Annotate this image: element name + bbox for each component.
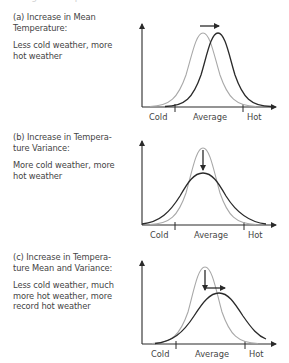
panel-b-chart: Cold Average Hot bbox=[142, 141, 276, 240]
average-label: Average bbox=[193, 112, 227, 122]
panel-a-chart: Cold Average Hot bbox=[142, 24, 276, 122]
cold-label: Cold bbox=[151, 349, 169, 359]
distribution-diagrams: Cold Average Hot Cold Average Hot Cold A… bbox=[0, 0, 289, 363]
average-label: Average bbox=[194, 230, 228, 240]
cold-label: Cold bbox=[149, 112, 167, 122]
hot-label: Hot bbox=[248, 230, 263, 240]
panel-c-chart: Cold Average Hot bbox=[142, 261, 276, 359]
hot-label: Hot bbox=[249, 349, 264, 359]
average-label: Average bbox=[195, 349, 229, 359]
cold-label: Cold bbox=[150, 230, 168, 240]
shifted-widened-distribution-curve bbox=[155, 293, 266, 344]
widened-distribution-curve bbox=[142, 173, 266, 224]
hot-label: Hot bbox=[247, 112, 262, 122]
